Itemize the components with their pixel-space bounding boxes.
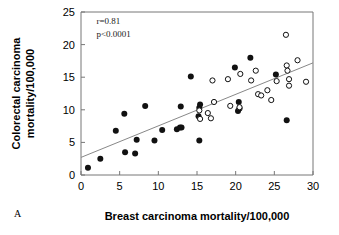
open-markers-point-22 xyxy=(295,58,300,63)
annotation-pvalue: p<0.0001 xyxy=(96,29,130,39)
scatter-plot: 0510152025300510152025 r=0.81p<0.0001 Br… xyxy=(0,0,339,235)
filled-markers-point-5 xyxy=(132,150,138,156)
open-markers-point-21 xyxy=(286,83,291,88)
data-points xyxy=(85,32,309,171)
open-markers-point-6 xyxy=(225,77,230,82)
y-tick-label-2: 10 xyxy=(63,104,75,116)
open-markers-point-9 xyxy=(238,71,243,76)
open-markers-point-18 xyxy=(284,63,289,68)
filled-markers-point-25 xyxy=(284,117,290,123)
open-markers-point-0 xyxy=(197,108,202,113)
filled-markers-point-2 xyxy=(113,128,119,134)
open-markers-point-13 xyxy=(259,93,264,98)
open-markers-point-23 xyxy=(303,79,308,84)
open-markers-point-1 xyxy=(197,116,202,121)
filled-markers-point-4 xyxy=(122,149,128,155)
x-tick-label-6: 30 xyxy=(307,180,319,192)
filled-markers-point-6 xyxy=(134,137,140,143)
open-markers-point-4 xyxy=(210,78,215,83)
open-markers-point-8 xyxy=(237,105,242,110)
x-tick-label-0: 0 xyxy=(78,180,84,192)
filled-markers-point-22 xyxy=(236,99,242,105)
filled-markers-point-12 xyxy=(179,124,185,130)
filled-markers-point-0 xyxy=(85,165,91,171)
filled-markers-point-19 xyxy=(232,64,238,70)
filled-markers-point-9 xyxy=(159,127,165,133)
x-tick-label-3: 15 xyxy=(191,180,203,192)
x-tick-label-2: 10 xyxy=(152,180,164,192)
open-markers-point-5 xyxy=(211,99,216,104)
open-markers-point-19 xyxy=(285,68,290,73)
open-markers-point-2 xyxy=(205,110,210,115)
x-tick-label-1: 5 xyxy=(117,180,123,192)
y-axis-title-line1: Colorectal carcinoma xyxy=(10,37,22,150)
y-axis-title-line2: mortality/100,000 xyxy=(24,49,36,138)
y-tick-label-3: 15 xyxy=(63,71,75,83)
open-markers-point-15 xyxy=(269,97,274,102)
open-markers-point-16 xyxy=(274,79,279,84)
y-tick-label-1: 5 xyxy=(69,136,75,148)
open-markers-point-3 xyxy=(208,116,213,121)
x-tick-label-4: 20 xyxy=(230,180,242,192)
filled-markers-point-13 xyxy=(178,104,184,110)
filled-markers-point-17 xyxy=(197,102,203,108)
annotation-correlation: r=0.81 xyxy=(96,16,120,26)
open-markers-point-20 xyxy=(286,77,291,82)
open-markers-point-11 xyxy=(253,68,258,73)
y-tick-label-0: 0 xyxy=(69,169,75,181)
figure-panel: 0510152025300510152025 r=0.81p<0.0001 Br… xyxy=(0,0,339,235)
x-tick-label-5: 25 xyxy=(268,180,280,192)
filled-markers-point-8 xyxy=(151,137,157,143)
open-markers-point-7 xyxy=(228,103,233,108)
filled-markers-point-7 xyxy=(142,103,148,109)
chart-annotations: r=0.81p<0.0001 xyxy=(96,16,130,39)
filled-markers-point-3 xyxy=(121,111,127,117)
filled-markers-point-18 xyxy=(196,137,202,143)
y-tick-label-5: 25 xyxy=(63,6,75,18)
open-markers-point-17 xyxy=(283,32,288,37)
y-tick-label-4: 20 xyxy=(63,39,75,51)
x-axis-title: Breast carcinoma mortality/100,000 xyxy=(105,210,290,222)
filled-markers-point-23 xyxy=(247,55,253,61)
open-markers-point-10 xyxy=(249,78,254,83)
open-markers-point-14 xyxy=(265,88,270,93)
filled-markers-point-14 xyxy=(188,74,194,80)
filled-markers-point-1 xyxy=(97,156,103,162)
filled-markers-point-24 xyxy=(273,72,279,78)
panel-label-a: A xyxy=(14,208,22,219)
